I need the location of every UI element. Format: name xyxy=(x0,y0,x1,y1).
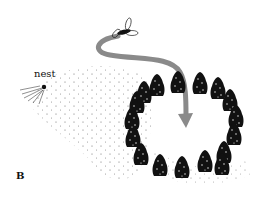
illustration xyxy=(0,0,276,204)
panel-label: B xyxy=(16,170,24,181)
nest-label: nest xyxy=(34,68,56,79)
figure-canvas: nest B xyxy=(0,0,276,204)
